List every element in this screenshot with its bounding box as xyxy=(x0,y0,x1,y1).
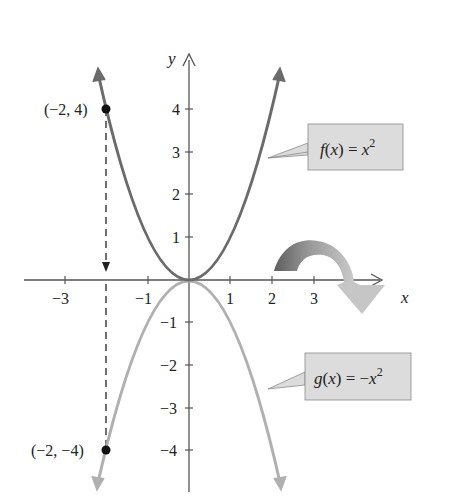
y-tick-label: 1 xyxy=(172,229,180,246)
x-axis-label: x xyxy=(400,288,409,307)
callout-f-text: f(x) = x2 xyxy=(320,136,375,159)
y-tick-label: 2 xyxy=(172,186,180,203)
point-bottom xyxy=(102,446,111,455)
x-tick-label: 3 xyxy=(310,290,318,307)
y-axis xyxy=(183,54,195,492)
point-top xyxy=(102,105,111,114)
point-top-label: (−2, 4) xyxy=(44,101,88,119)
y-tick-label: 4 xyxy=(172,101,180,118)
y-tick-label: 3 xyxy=(172,144,180,161)
y-tick-label: −4 xyxy=(160,442,177,459)
point-bottom-label: (−2, −4) xyxy=(31,442,84,460)
reflection-arrow-icon xyxy=(274,240,385,314)
y-tick-label: −3 xyxy=(160,400,177,417)
callout-g-text: g(x) = −x2 xyxy=(314,365,383,388)
x-tick-label: −3 xyxy=(52,290,69,307)
y-tick-label: −1 xyxy=(160,314,177,331)
x-tick-label: 1 xyxy=(226,290,234,307)
callout-g: g(x) = −x2 xyxy=(268,353,411,400)
callout-f: f(x) = x2 xyxy=(268,124,403,170)
y-tick-label: −2 xyxy=(160,357,177,374)
x-tick-label: −1 xyxy=(135,290,152,307)
x-tick-label: 2 xyxy=(268,290,276,307)
y-axis-label: y xyxy=(166,49,176,68)
reflection-graph: y x −3 −1 1 2 3 4 3 2 1 −1 −2 −3 −4 (−2,… xyxy=(0,0,449,500)
